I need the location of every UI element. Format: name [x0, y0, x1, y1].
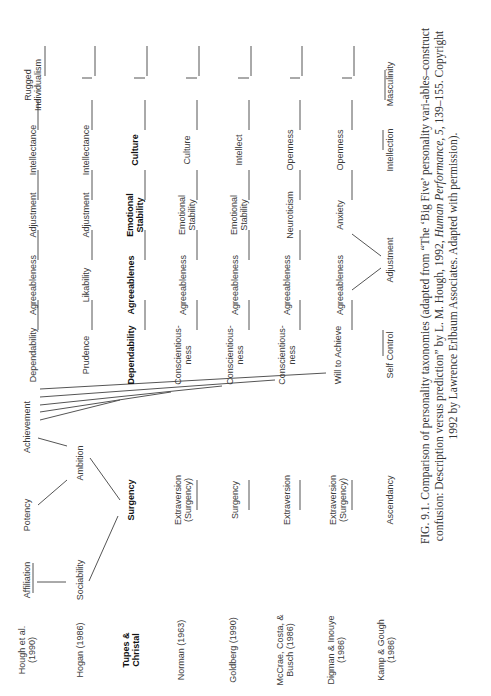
trait-prudence: Prudence: [81, 336, 91, 375]
source-mccrae: McCrae, Costa, &Busch (1986): [275, 614, 295, 685]
trait-ascendancy: Ascendancy: [385, 475, 395, 524]
text: Emotional: [125, 193, 135, 237]
text: (1990): [27, 637, 37, 663]
trait-conscientiousness: Conscientious-ness: [173, 325, 193, 385]
trait-agreeableness: Agreeableness: [178, 255, 188, 315]
source-tupes: Tupes &Christal: [121, 633, 141, 668]
text: Emotional: [177, 195, 187, 235]
trait-adjustment: Adjustment: [385, 237, 395, 282]
trait-extraversion: Extraversion: [282, 475, 292, 525]
trait-agreeableness: Agreeableness: [282, 255, 292, 315]
caption-volume: 5,: [433, 126, 445, 135]
source-digman: Digman & Inouye(1986): [326, 615, 346, 684]
trait-agreeableness: Agreeableness: [230, 255, 240, 315]
text: Stability: [239, 199, 249, 231]
caption-journal: Human Performance,: [433, 138, 445, 238]
text: ness: [287, 346, 297, 365]
text: Christal: [131, 633, 141, 667]
text: ness: [235, 346, 245, 365]
trait-conscientiousness: Conscientious-ness: [277, 325, 297, 385]
trait-intellectance: Intellectance: [81, 125, 91, 176]
text: Conscientious-: [173, 325, 183, 385]
text: Individualism: [33, 59, 43, 111]
text: Extraversion: [173, 475, 183, 525]
trait-potency: Potency: [22, 499, 32, 532]
text: Emotional: [229, 195, 239, 235]
trait-self-control: Self Control: [385, 331, 395, 378]
trait-ambition: Ambition: [75, 445, 85, 480]
text: Conscientious-: [277, 325, 287, 385]
trait-emotional-stability: EmotionalStability: [229, 195, 249, 235]
trait-extraversion: Extraversion(Surgency): [173, 475, 193, 525]
text: Digman & Inouye: [326, 615, 336, 684]
source-norman: Norman (1963): [176, 620, 186, 681]
text: (Surgency): [183, 478, 193, 522]
trait-achievement: Achievement: [22, 401, 32, 453]
trait-conscientiousness: Conscientious-ness: [225, 325, 245, 385]
text: Extraversion: [328, 475, 338, 525]
trait-likability: Likability: [81, 268, 91, 303]
trait-intellect: Intellect: [234, 134, 244, 165]
text: (1986): [336, 637, 346, 663]
trait-agreeableness: Agreeablenes: [126, 255, 136, 314]
trait-anxiety: Anxiety: [335, 200, 345, 230]
trait-extraversion: Extraversion(Surgency): [328, 475, 348, 525]
text: Hough et al.: [17, 626, 27, 675]
text: ness: [183, 346, 193, 365]
trait-neuroticism: Neuroticism: [285, 191, 295, 239]
trait-agreeableness: Agreeableness: [335, 255, 345, 315]
trait-openness: Openness: [335, 129, 345, 170]
text: McCrae, Costa, &: [275, 614, 285, 685]
trait-surgency: Surgency: [230, 481, 240, 519]
trait-adjustment: Adjustment: [81, 192, 91, 237]
source-hogan: Hogan (1986): [75, 622, 85, 677]
text: Busch (1986): [285, 623, 295, 677]
trait-rugged-individualism: RuggedIndividualism: [23, 59, 43, 111]
trait-emotional-stability: EmotionalStability: [125, 193, 145, 237]
trait-affiliation: Affiliation: [22, 562, 32, 598]
trait-culture: Culture: [182, 135, 192, 164]
trait-emotional-stability: EmotionalStability: [177, 195, 197, 235]
text: Tupes &: [121, 633, 131, 668]
source-kamp: Kamp & Gough(1986): [376, 619, 396, 681]
text: Rugged: [23, 69, 33, 101]
text: Kamp & Gough: [376, 619, 386, 681]
text: (Surgency): [338, 478, 348, 522]
text: Stability: [187, 199, 197, 231]
trait-dependability: Dependability: [28, 328, 38, 383]
text: Conscientious-: [225, 325, 235, 385]
source-goldberg: Goldberg (1990): [228, 617, 238, 683]
trait-sociability: Sociability: [75, 560, 85, 601]
trait-intellectance: Intellectance: [28, 125, 38, 176]
trait-dependability: Dependability: [126, 325, 136, 384]
trait-surgency: Surgency: [126, 479, 136, 520]
trait-culture: Culture: [130, 134, 140, 166]
figure-caption: FIG. 9.1. Comparison of personality taxo…: [418, 26, 460, 546]
text: Stability: [135, 197, 145, 232]
source-hough: Hough et al.(1990): [17, 626, 37, 675]
trait-will-to-achieve: Will to Achieve: [333, 326, 343, 385]
trait-masculinity: Masculinity: [385, 62, 395, 107]
trait-openness: Openness: [285, 129, 295, 170]
trait-intellection: Intellection: [385, 128, 395, 171]
rotated-figure: Hough et al.(1990) Hogan (1986) Tupes &C…: [0, 0, 491, 696]
text: (1986): [386, 637, 396, 663]
trait-agreeableness: Agreeableness: [28, 255, 38, 315]
trait-adjustment: Adjustment: [28, 192, 38, 237]
